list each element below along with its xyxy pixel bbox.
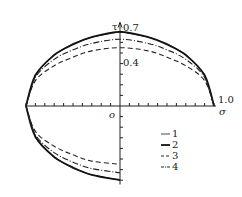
chart-plot <box>0 0 242 197</box>
x-axis-label: σ <box>219 107 226 117</box>
legend-label-4: 4 <box>172 162 178 172</box>
x-tick-label-1.0: 1.0 <box>218 95 234 105</box>
curve-3-lower <box>26 106 120 164</box>
origin-label: o <box>109 110 115 120</box>
legend-lines <box>161 134 170 167</box>
legend-label-1: 1 <box>172 129 178 139</box>
legend-label-2: 2 <box>172 140 178 150</box>
curve-2-lower <box>26 106 120 180</box>
y-tick-label-0.4: 0.4 <box>123 58 139 68</box>
y-axis-label: τ <box>112 22 118 32</box>
axes <box>26 22 216 184</box>
legend-label-3: 3 <box>172 151 178 161</box>
y-tick-label-0.7: 0.7 <box>123 23 139 33</box>
